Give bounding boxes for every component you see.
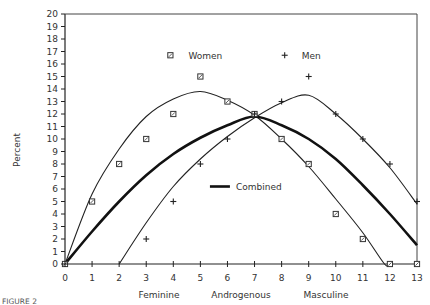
x-region-androgenous: Androgenous — [211, 290, 271, 300]
x-tick-label: 3 — [143, 273, 149, 283]
y-tick-label: 7 — [52, 172, 58, 182]
y-tick-label: 4 — [52, 209, 58, 219]
x-tick-label: 7 — [252, 273, 258, 283]
chart: 01234567891011121314151617181920 0123456… — [0, 0, 430, 305]
x-tick-label: 10 — [330, 273, 342, 283]
y-tick-label: 12 — [47, 109, 58, 119]
x-region-feminine: Feminine — [139, 290, 180, 300]
legend-men-label: Men — [302, 51, 321, 61]
y-tick-label: 20 — [47, 9, 59, 19]
x-tick-label: 5 — [198, 273, 204, 283]
x-region-masculine: Masculine — [304, 290, 349, 300]
y-tick-label: 11 — [47, 122, 58, 132]
y-tick-label: 8 — [52, 159, 58, 169]
y-tick-label: 9 — [52, 147, 58, 157]
y-tick-label: 19 — [47, 22, 59, 32]
x-tick-label: 12 — [384, 273, 395, 283]
y-tick-label: 0 — [52, 259, 58, 269]
y-tick-label: 15 — [47, 72, 58, 82]
legend-women-label: Women — [188, 51, 222, 61]
y-tick-label: 16 — [47, 59, 59, 69]
y-tick-label: 10 — [47, 134, 59, 144]
y-tick-label: 13 — [47, 97, 58, 107]
y-tick-label: 17 — [47, 47, 58, 57]
y-tick-label: 3 — [52, 222, 58, 232]
x-tick-label: 1 — [89, 273, 95, 283]
y-tick-label: 2 — [52, 234, 58, 244]
x-tick-label: 0 — [62, 273, 68, 283]
x-tick-label: 11 — [357, 273, 368, 283]
x-tick-label: 8 — [279, 273, 285, 283]
women-fit-curve — [65, 91, 390, 266]
x-tick-label: 13 — [411, 273, 422, 283]
y-axis: 01234567891011121314151617181920 — [47, 9, 65, 269]
x-tick-label: 6 — [225, 273, 231, 283]
y-tick-label: 1 — [52, 247, 58, 257]
figure-caption: FIGURE 2 — [2, 297, 37, 305]
y-tick-label: 6 — [52, 184, 58, 194]
legend-combined-label: Combined — [236, 182, 282, 192]
y-tick-label: 14 — [47, 84, 59, 94]
x-tick-label: 2 — [116, 273, 122, 283]
y-tick-label: 5 — [52, 197, 58, 207]
y-tick-label: 18 — [47, 34, 59, 44]
x-tick-label: 4 — [170, 273, 176, 283]
legend: WomenMenCombined — [168, 51, 321, 192]
x-tick-label: 9 — [306, 273, 312, 283]
y-axis-label: Percent — [12, 133, 22, 167]
